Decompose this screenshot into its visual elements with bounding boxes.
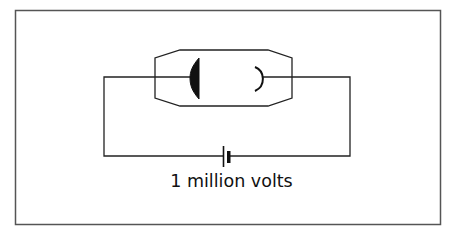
right-wire: [230, 77, 350, 156]
circuit-diagram: 1 million volts: [0, 0, 455, 233]
battery-icon: [224, 146, 231, 167]
circuit-wires: [104, 77, 350, 156]
diagram-frame: [16, 11, 441, 225]
anode-icon: [255, 67, 263, 91]
battery-voltage-label: 1 million volts: [170, 171, 292, 191]
left-wire: [104, 77, 223, 156]
cathode-icon: [190, 58, 199, 99]
vacuum-tube-envelope: [155, 50, 292, 106]
